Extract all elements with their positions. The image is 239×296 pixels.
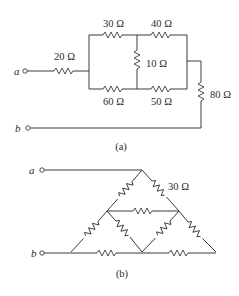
resistor-bottom-left-icon [71,250,142,256]
resistor-80-label: 80 Ω [210,89,231,100]
resistor-right-lower-icon [179,211,216,252]
terminal-a-label: a [14,65,20,77]
resistor-30-label: 30 Ω [103,18,124,29]
terminal-b-icon [40,251,44,255]
resistor-20-icon [54,68,73,74]
terminal-a-icon [23,69,27,73]
resistor-bottom-right-icon [142,250,216,256]
resistor-left-upper-icon [107,170,142,211]
resistor-left-lower-icon [71,211,107,252]
resistor-middle-horizontal-icon [107,208,179,214]
resistor-30-label: 30 Ω [168,181,189,192]
resistor-40-label: 40 Ω [151,18,172,29]
figure-b: a 30 Ω [29,164,216,280]
resistor-inner-right-icon [142,211,179,252]
resistor-60-icon [103,86,122,92]
resistor-10-label: 10 Ω [146,58,167,69]
resistor-30-icon [103,32,122,38]
terminal-b-label: b [31,247,37,259]
figure-a: a 20 Ω 30 Ω 40 Ω 10 Ω 60 Ω 50 Ω [14,18,231,153]
terminal-b-label: b [15,122,21,134]
terminal-a-label: a [29,164,35,176]
figure-a-caption: (a) [115,141,127,153]
figure-b-caption: (b) [116,268,129,280]
resistor-50-icon [151,86,170,92]
resistor-50-label: 50 Ω [151,96,172,107]
resistor-10-icon [134,50,140,69]
resistor-80-icon [198,82,204,101]
terminal-b-icon [26,126,30,130]
resistor-20-label: 20 Ω [54,51,75,62]
resistor-60-label: 60 Ω [103,96,124,107]
resistor-inner-left-icon [107,211,142,252]
terminal-a-icon [40,168,44,172]
wire [187,61,201,82]
circuit-diagram: a 20 Ω 30 Ω 40 Ω 10 Ω 60 Ω 50 Ω [0,0,239,296]
resistor-40-icon [151,32,170,38]
